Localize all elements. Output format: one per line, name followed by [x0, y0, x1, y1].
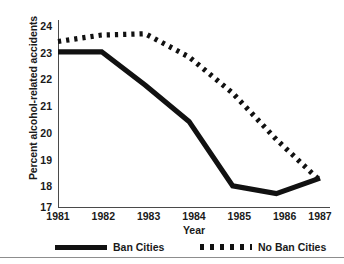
x-axis-title: Year	[58, 224, 330, 236]
footer-divider	[0, 257, 344, 258]
legend-label-no-ban-cities: No Ban Cities	[258, 241, 326, 253]
legend-item-ban-cities: Ban Cities	[55, 241, 164, 253]
chart-legend: Ban Cities No Ban Cities	[0, 240, 344, 256]
legend-swatch-solid-line	[55, 245, 107, 250]
legend-label-ban-cities: Ban Cities	[113, 241, 164, 253]
legend-swatch-dotted-line	[200, 244, 252, 250]
x-tick-label-1985: 1985	[217, 210, 261, 222]
legend-item-no-ban-cities: No Ban Cities	[200, 241, 326, 253]
chart-figure: Percent alcohol-related accidents 24 23 …	[0, 0, 344, 264]
x-tick-label-1981: 1981	[36, 210, 80, 222]
series-line-no-ban-cities	[58, 34, 320, 181]
x-tick-label-1987: 1987	[298, 210, 342, 222]
x-tick-label-1983: 1983	[127, 210, 171, 222]
x-tick-label-1984: 1984	[172, 210, 216, 222]
x-tick-label-1982: 1982	[81, 210, 125, 222]
series-line-ban-cities	[58, 52, 320, 194]
